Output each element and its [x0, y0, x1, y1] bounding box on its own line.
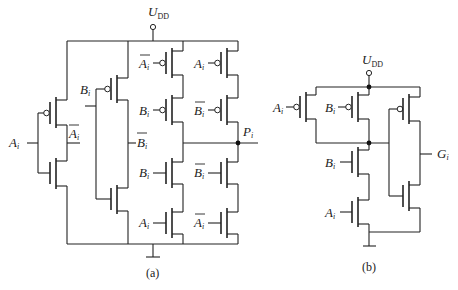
inverter-b — [85, 41, 136, 244]
svg-text:Ai: Ai — [138, 56, 149, 72]
middle-column — [153, 41, 183, 244]
label-b-in: Bi — [80, 82, 90, 98]
svg-text:Ai: Ai — [68, 126, 79, 142]
label-a-bar-out: Ai — [68, 125, 79, 142]
vdd-terminal-a: UDD — [148, 4, 169, 41]
label-right-pu1: Ai — [193, 56, 204, 72]
circuit-a: UDD — [8, 4, 258, 280]
label-b-pd-a: Ai — [324, 205, 335, 221]
caption-a: (a) — [146, 266, 159, 280]
label-right-pu2: Bi — [194, 102, 205, 119]
label-b-bar-out: Bi — [137, 133, 147, 151]
nand-pulldown — [340, 143, 369, 246]
svg-text:Ai: Ai — [193, 215, 204, 231]
label-a-in: Ai — [8, 135, 19, 151]
inverter-g — [369, 87, 432, 232]
output-node-p: Pi — [183, 124, 258, 145]
svg-text:Bi: Bi — [194, 165, 204, 181]
svg-text:UDD: UDD — [362, 52, 383, 69]
label-right-pd1: Bi — [194, 164, 205, 181]
label-mid-pd1: Bi — [139, 165, 149, 181]
vdd-terminal-b: UDD — [362, 52, 383, 87]
caption-b: (b) — [362, 260, 376, 274]
circuit-diagram: UDD — [0, 0, 458, 290]
label-b-pd-b: Bi — [325, 155, 335, 171]
inverter-a — [27, 41, 80, 244]
label-b-pu-b: Bi — [325, 100, 335, 116]
label-mid-pu2: Bi — [139, 103, 149, 119]
svg-text:Bi: Bi — [194, 103, 204, 119]
circuit-b: UDD Ai Bi — [272, 52, 449, 274]
svg-text:Bi: Bi — [137, 135, 147, 151]
label-b-pu-a: Ai — [272, 100, 283, 116]
nand-pullup — [286, 87, 369, 143]
svg-text:Pi: Pi — [242, 124, 253, 140]
label-mid-pd2: Ai — [138, 215, 149, 231]
label-mid-pu1: Ai — [138, 55, 150, 72]
label-right-pd2: Ai — [193, 214, 205, 231]
svg-text:UDD: UDD — [148, 4, 169, 21]
ground-symbol-a — [146, 244, 160, 257]
output-label-g: Gi — [437, 146, 449, 162]
